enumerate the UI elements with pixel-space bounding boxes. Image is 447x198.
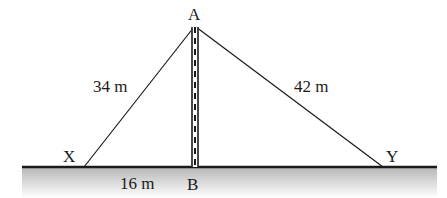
diagram-canvas: A B X Y 34 m 42 m 16 m xyxy=(0,0,447,198)
length-label-ax: 34 m xyxy=(93,77,127,96)
point-label-a: A xyxy=(188,5,201,24)
point-label-y: Y xyxy=(386,147,398,166)
wire-ay xyxy=(196,27,383,167)
ground-shading xyxy=(22,168,437,198)
length-label-ay: 42 m xyxy=(294,77,328,96)
point-label-x: X xyxy=(63,147,75,166)
point-label-b: B xyxy=(187,175,198,194)
wire-ax xyxy=(84,27,194,167)
pole-ab xyxy=(192,27,199,167)
length-label-xb: 16 m xyxy=(120,174,154,193)
